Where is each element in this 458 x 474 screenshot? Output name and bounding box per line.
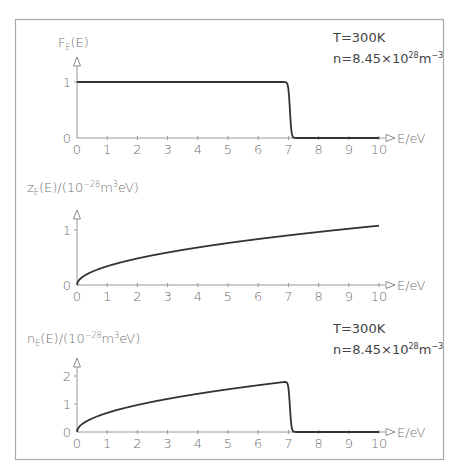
x-tick-label: 2 <box>133 289 141 304</box>
temperature-annotation: T=300K <box>332 321 386 336</box>
y-tick-label: 0 <box>63 278 71 293</box>
x-tick-label: 5 <box>224 289 232 304</box>
y-axis-arrow-icon <box>74 210 81 219</box>
y-tick-label: 0 <box>63 131 71 146</box>
x-tick-label: 4 <box>194 142 202 157</box>
figure: FE(E) T=300K n=8.45×1028m−3 E/eV 0123456… <box>0 0 458 474</box>
x-tick-label: 4 <box>194 289 202 304</box>
x-tick-label: 0 <box>73 289 81 304</box>
y-tick-label: 1 <box>63 223 71 238</box>
x-tick-label: 10 <box>371 289 388 304</box>
y-tick-label: 1 <box>63 75 71 90</box>
x-axis-arrow-icon <box>386 135 395 142</box>
x-tick-label: 10 <box>371 436 388 451</box>
x-tick-label: 1 <box>103 289 111 304</box>
density-annotation: n=8.45×1028m−3 <box>333 342 443 357</box>
y-tick-label: 0 <box>63 425 71 440</box>
y-axis-label: nE(E)/(10−28m3eV) <box>27 331 140 348</box>
x-tick-label: 3 <box>163 436 171 451</box>
x-tick-label: 5 <box>224 436 232 451</box>
x-tick-label: 7 <box>284 142 292 157</box>
x-tick-label: 1 <box>103 142 111 157</box>
x-tick-label: 0 <box>73 436 81 451</box>
x-axis-label: E/eV <box>397 278 426 293</box>
x-tick-label: 7 <box>284 436 292 451</box>
x-tick-label: 8 <box>314 289 322 304</box>
data-curve <box>77 82 379 138</box>
x-tick-label: 1 <box>103 436 111 451</box>
x-tick-label: 10 <box>371 142 388 157</box>
figure-frame <box>16 20 444 460</box>
temperature-annotation: T=300K <box>332 30 386 45</box>
x-tick-label: 5 <box>224 142 232 157</box>
x-tick-label: 8 <box>314 142 322 157</box>
x-tick-label: 2 <box>133 142 141 157</box>
panel-density-of-states: zE(E)/(10−28m3eV) E/eV 01234567891001 <box>27 180 426 304</box>
x-tick-label: 3 <box>163 142 171 157</box>
x-axis-label: E/eV <box>397 425 426 440</box>
data-curve <box>77 226 379 285</box>
x-tick-label: 2 <box>133 436 141 451</box>
y-tick-label: 1 <box>63 397 71 412</box>
x-tick-label: 4 <box>194 436 202 451</box>
y-axis-arrow-icon <box>74 57 81 66</box>
x-tick-label: 7 <box>284 289 292 304</box>
y-axis-label: zE(E)/(10−28m3eV) <box>27 180 139 197</box>
density-annotation: n=8.45×1028m−3 <box>333 51 443 66</box>
x-tick-label: 9 <box>345 289 353 304</box>
panel-fermi-distribution: FE(E) T=300K n=8.45×1028m−3 E/eV 0123456… <box>58 30 443 157</box>
x-tick-label: 6 <box>254 436 262 451</box>
x-axis-arrow-icon <box>386 429 395 436</box>
x-tick-label: 6 <box>254 289 262 304</box>
x-tick-label: 9 <box>345 436 353 451</box>
x-tick-label: 3 <box>163 289 171 304</box>
data-curve <box>77 382 379 432</box>
x-tick-label: 8 <box>314 436 322 451</box>
x-axis-label: E/eV <box>397 131 426 146</box>
x-axis-arrow-icon <box>386 282 395 289</box>
x-tick-label: 9 <box>345 142 353 157</box>
x-tick-label: 0 <box>73 142 81 157</box>
y-tick-label: 2 <box>63 369 71 384</box>
y-axis-arrow-icon <box>74 358 81 367</box>
y-axis-label: FE(E) <box>58 35 89 52</box>
x-tick-label: 6 <box>254 142 262 157</box>
panel-occupied-states: nE(E)/(10−28m3eV) T=300K n=8.45×1028m−3 … <box>27 321 443 451</box>
